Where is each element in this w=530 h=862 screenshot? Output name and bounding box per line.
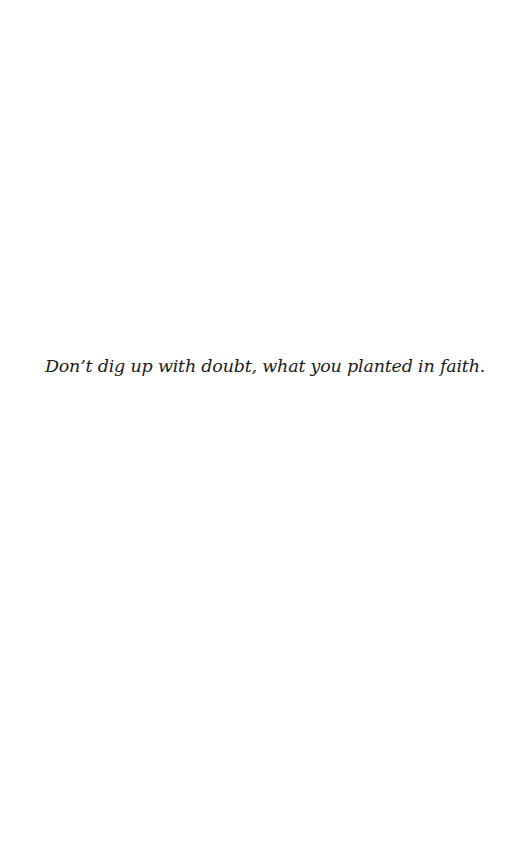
- quote-text: Don’t dig up with doubt, what you plante…: [0, 354, 530, 378]
- document-page: Don’t dig up with doubt, what you plante…: [0, 0, 530, 862]
